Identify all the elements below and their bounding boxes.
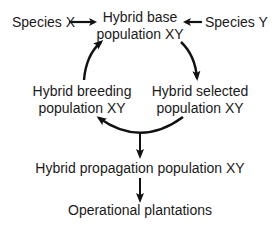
node-species-x: Species X xyxy=(12,14,75,31)
node-hybrid-breeding-line1: Hybrid breeding xyxy=(27,83,137,100)
arrow-breeding-to-base xyxy=(84,42,101,80)
node-hybrid-propagation: Hybrid propagation population XY xyxy=(20,160,260,177)
breeding-cycle-diagram: Species X Species Y Hybrid base populati… xyxy=(0,0,278,228)
node-species-x-label: Species X xyxy=(12,14,75,31)
node-hybrid-breeding: Hybrid breeding population XY xyxy=(27,83,137,117)
node-hybrid-base: Hybrid base population XY xyxy=(90,9,190,43)
node-species-y-label: Species Y xyxy=(205,14,268,31)
node-hybrid-breeding-line2: population XY xyxy=(27,100,137,117)
arrow-base-to-selected xyxy=(181,42,197,78)
node-hybrid-base-line1: Hybrid base xyxy=(90,9,190,26)
node-hybrid-selected-line1: Hybrid selected xyxy=(145,83,255,100)
node-species-y: Species Y xyxy=(205,14,268,31)
node-operational-plantations: Operational plantations xyxy=(40,202,240,219)
arrow-selected-to-breeding xyxy=(99,117,183,133)
node-hybrid-propagation-label: Hybrid propagation population XY xyxy=(20,160,260,177)
node-operational-plantations-label: Operational plantations xyxy=(40,202,240,219)
node-hybrid-selected: Hybrid selected population XY xyxy=(145,83,255,117)
node-hybrid-selected-line2: population XY xyxy=(145,100,255,117)
node-hybrid-base-line2: population XY xyxy=(90,26,190,43)
